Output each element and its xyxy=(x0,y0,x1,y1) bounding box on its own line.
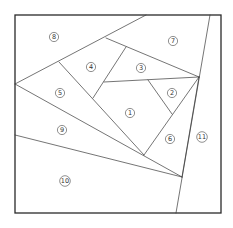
label-number: 6 xyxy=(168,135,172,143)
piece-label-10: 10 xyxy=(60,176,71,187)
label-number: 3 xyxy=(139,64,143,72)
piece-label-6: 6 xyxy=(165,134,174,143)
boundary-edge-9-10 xyxy=(15,135,182,177)
label-number: 9 xyxy=(60,126,64,134)
label-number: 1 xyxy=(128,109,132,117)
piece-label-2: 2 xyxy=(167,88,176,97)
boundary-edge-6-11 xyxy=(182,77,199,177)
piece-label-5: 5 xyxy=(55,88,64,97)
boundary-edge-3-1 xyxy=(104,77,199,82)
outer-frame xyxy=(15,15,221,213)
label-number: 8 xyxy=(52,33,56,41)
piece-label-8: 8 xyxy=(49,32,58,41)
piece-boundaries xyxy=(15,15,210,213)
boundary-diag-8 xyxy=(15,15,146,84)
diagram-svg: 1234567891011 xyxy=(0,0,233,228)
piece-label-9: 9 xyxy=(57,125,66,134)
piece-label-1: 1 xyxy=(125,108,134,117)
label-number: 5 xyxy=(58,89,62,97)
label-number: 2 xyxy=(170,89,174,97)
boundary-edge-7-3 xyxy=(106,38,199,77)
piece-label-3: 3 xyxy=(136,63,145,72)
label-number: 7 xyxy=(171,37,175,45)
label-number: 10 xyxy=(61,177,69,185)
boundary-edge-5-9 xyxy=(15,84,182,177)
piece-label-11: 11 xyxy=(197,132,208,143)
boundary-edge-3-4 xyxy=(93,47,126,98)
quilt-diagram: 1234567891011 xyxy=(0,0,233,228)
piece-label-4: 4 xyxy=(86,62,95,71)
boundary-edge-2-1 xyxy=(148,80,172,114)
piece-label-7: 7 xyxy=(168,36,177,45)
label-number: 4 xyxy=(89,63,93,71)
label-number: 11 xyxy=(198,133,206,141)
